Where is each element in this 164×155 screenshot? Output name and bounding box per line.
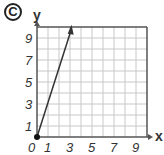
x-tick-label: 9: [132, 140, 139, 155]
x-axis-label: x: [155, 128, 163, 144]
x-tick-label: 0: [28, 140, 36, 155]
y-axis-label: y: [33, 7, 41, 23]
x-tick-label: 5: [88, 140, 96, 155]
x-axis-arrow-icon: [148, 134, 153, 140]
data-line: [37, 31, 71, 137]
x-tick-label: 1: [44, 140, 51, 155]
y-tick-label: 7: [25, 53, 33, 68]
x-tick-label: 3: [66, 140, 74, 155]
y-tick-label: 5: [25, 75, 33, 90]
line-graph: xy01357913579: [0, 0, 164, 155]
x-tick-label: 7: [110, 140, 118, 155]
y-tick-label: 9: [25, 31, 32, 46]
y-tick-label: 3: [25, 97, 33, 112]
origin-point: [34, 134, 40, 140]
y-tick-label: 1: [25, 119, 32, 134]
